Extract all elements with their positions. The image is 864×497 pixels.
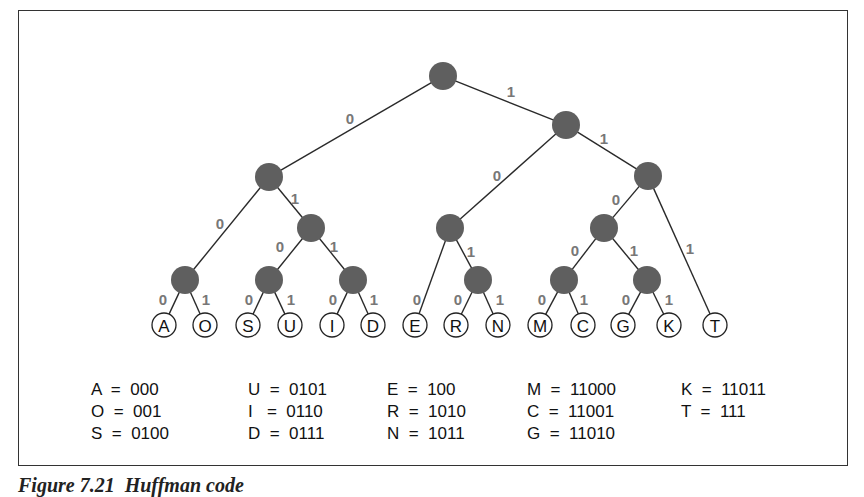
- edge-bit-label: 1: [330, 238, 338, 255]
- leaf-node-s: S: [236, 313, 260, 337]
- code-entry: E = 100: [387, 380, 456, 400]
- edge-bit-label: 1: [600, 130, 608, 147]
- internal-node: [464, 266, 492, 294]
- figure-caption: Figure 7.21 Huffman code: [18, 474, 244, 497]
- edge-bit-labels: 01010101010101010101010101: [159, 83, 694, 308]
- code-entry: T = 111: [681, 402, 746, 422]
- internal-node: [171, 266, 199, 294]
- edge-bit-label: 0: [276, 238, 284, 255]
- edge-bit-label: 0: [571, 242, 579, 259]
- tree-edge: [651, 184, 710, 314]
- leaf-node-k: K: [657, 313, 681, 337]
- internal-node: [436, 214, 464, 242]
- internal-node: [339, 266, 367, 294]
- edge-bit-label: 0: [413, 291, 421, 308]
- leaf-node-a: A: [152, 313, 176, 337]
- svg-text:U: U: [284, 317, 296, 336]
- internal-node: [255, 266, 283, 294]
- edge-bit-label: 1: [467, 243, 475, 260]
- svg-text:K: K: [663, 317, 675, 336]
- edge-bit-label: 0: [216, 215, 224, 232]
- edge-bit-label: 1: [370, 291, 378, 308]
- internal-node: [255, 163, 283, 191]
- svg-text:O: O: [198, 317, 211, 336]
- leaf-node-d: D: [361, 313, 385, 337]
- edge-bit-label: 1: [287, 291, 295, 308]
- edge-bit-label: 1: [291, 190, 299, 207]
- svg-text:M: M: [533, 317, 547, 336]
- tree-edges: [169, 79, 710, 314]
- tree-edge: [276, 80, 435, 173]
- edge-bit-label: 0: [329, 291, 337, 308]
- edge-bit-label: 0: [245, 291, 253, 308]
- svg-text:I: I: [330, 317, 335, 336]
- leaf-node-r: R: [444, 313, 468, 337]
- internal-node: [297, 214, 325, 242]
- code-entry: M = 11000: [527, 380, 616, 400]
- leaf-node-i: I: [320, 313, 344, 337]
- edge-bit-label: 0: [346, 110, 354, 127]
- svg-text:R: R: [450, 317, 462, 336]
- edge-bit-label: 1: [496, 291, 504, 308]
- edge-bit-label: 1: [202, 291, 210, 308]
- tree-edge: [456, 131, 559, 223]
- internal-node: [634, 162, 662, 190]
- svg-text:T: T: [710, 317, 720, 336]
- edge-bit-label: 0: [159, 291, 167, 308]
- svg-text:D: D: [367, 317, 379, 336]
- svg-text:E: E: [409, 317, 420, 336]
- code-entry: G = 11010: [527, 424, 615, 444]
- code-entry: O = 001: [91, 402, 161, 422]
- edge-bit-label: 0: [622, 291, 630, 308]
- leaf-node-g: G: [611, 313, 635, 337]
- edge-bit-label: 1: [630, 242, 638, 259]
- internal-node: [429, 62, 457, 90]
- code-entry: R = 1010: [387, 402, 466, 422]
- leaf-node-m: M: [528, 313, 552, 337]
- internal-node: [590, 214, 618, 242]
- svg-text:C: C: [577, 317, 589, 336]
- leaf-node-o: O: [193, 313, 217, 337]
- svg-text:G: G: [616, 317, 629, 336]
- internal-node: [552, 111, 580, 139]
- svg-text:N: N: [492, 317, 504, 336]
- code-entry: A = 000: [91, 380, 159, 400]
- edge-bit-label: 0: [538, 291, 546, 308]
- code-entry: U = 0101: [248, 380, 327, 400]
- edge-bit-label: 0: [454, 291, 462, 308]
- code-entry: K = 11011: [681, 380, 766, 400]
- code-entry: D = 0111: [248, 424, 324, 444]
- tree-edge: [451, 79, 558, 122]
- tree-edge: [190, 184, 263, 274]
- leaf-node-c: C: [571, 313, 595, 337]
- svg-text:S: S: [242, 317, 253, 336]
- tree-edge: [419, 236, 447, 314]
- internal-node: [550, 266, 578, 294]
- internal-node: [633, 266, 661, 294]
- leaf-node-t: T: [703, 313, 727, 337]
- code-entry: I = 0110: [248, 402, 323, 422]
- edge-bit-label: 0: [612, 191, 620, 208]
- edge-bit-label: 1: [580, 291, 588, 308]
- edge-bit-label: 0: [493, 167, 501, 184]
- edge-bit-label: 1: [507, 83, 515, 100]
- leaf-node-e: E: [403, 313, 427, 337]
- leaf-node-n: N: [486, 313, 510, 337]
- code-entry: C = 11001: [527, 402, 614, 422]
- leaf-node-u: U: [278, 313, 302, 337]
- code-entry: S = 0100: [91, 424, 169, 444]
- code-entry: N = 1011: [387, 424, 465, 444]
- edge-bit-label: 1: [665, 291, 673, 308]
- svg-text:A: A: [158, 317, 170, 336]
- edge-bit-label: 1: [686, 240, 694, 257]
